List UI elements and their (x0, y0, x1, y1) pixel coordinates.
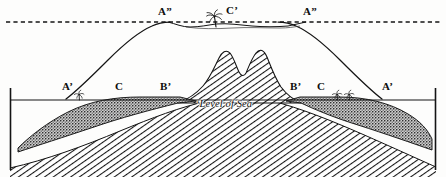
coral-reef-section-figure: A” C’ A” A’ C B’ B’ C A’ ‘Level of Sea (0, 0, 446, 177)
label-a-double-prime-right: A” (303, 6, 317, 17)
label-c-prime-lagoon: C’ (226, 5, 238, 16)
label-b-prime-left: B’ (160, 81, 171, 92)
label-b-prime-right: B’ (290, 81, 301, 92)
label-a-prime-right: A’ (382, 81, 393, 92)
label-a-double-prime-left: A” (158, 6, 172, 17)
label-c-right: C (317, 81, 325, 92)
label-level-of-sea: ‘Level of Sea (196, 99, 252, 110)
central-island-region (178, 50, 301, 103)
label-a-prime-left: A’ (62, 81, 73, 92)
label-c-left: C (115, 81, 123, 92)
